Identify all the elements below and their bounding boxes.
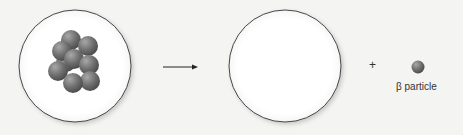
beta-decay-diagram: + β particle [0,0,463,135]
beta-particle-icon [412,61,425,74]
reaction-arrow [163,65,198,70]
beta-particle-label: β particle [396,81,437,92]
plus-sign: + [369,58,376,72]
nucleon [80,71,100,91]
nucleon [63,73,83,93]
product-nucleus-boundary [229,10,341,122]
diagram-canvas [0,0,463,135]
